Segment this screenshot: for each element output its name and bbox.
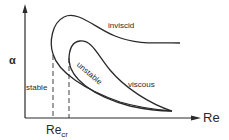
- x-axis-arrow-icon: [191, 116, 201, 121]
- x-axis: [25, 116, 201, 121]
- inviscid-label: inviscid: [108, 22, 134, 30]
- viscous-label: viscous: [128, 81, 155, 89]
- stable-region-label: stable: [26, 84, 47, 92]
- stability-diagram: α Re stable inviscid viscous unstable Re…: [0, 0, 229, 140]
- critical-reynolds-subscript: cr: [61, 130, 68, 139]
- critical-reynolds-base: Re: [46, 123, 61, 137]
- y-axis-arrow-icon: [23, 4, 28, 13]
- y-axis-label: α: [9, 55, 16, 66]
- x-axis-label: Re: [203, 111, 220, 124]
- critical-reynolds-label: Recr: [46, 121, 68, 137]
- y-axis: [23, 4, 28, 118]
